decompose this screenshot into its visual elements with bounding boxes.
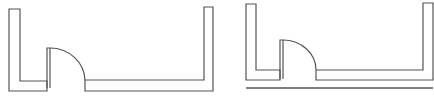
left-door-swing-arc [50, 48, 85, 81]
left-outer-wall [9, 9, 47, 91]
left-wall-section [9, 7, 213, 91]
right-door-jamb [280, 40, 283, 79]
left-floor-and-right-wall [85, 7, 213, 91]
diagram-canvas [0, 0, 434, 111]
right-outer-wall [246, 4, 280, 80]
right-door-swing-arc [283, 40, 316, 70]
left-door-jamb [47, 48, 50, 88]
right-wall-section [246, 3, 433, 88]
right-floor-and-right-wall [316, 3, 433, 80]
